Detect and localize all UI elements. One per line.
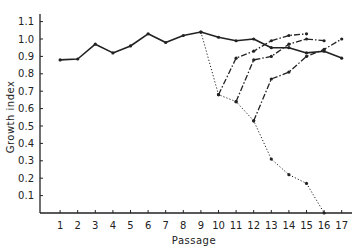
x-tick-label: 10 (212, 220, 225, 231)
data-point (305, 32, 308, 35)
data-point (164, 41, 167, 44)
y-tick-label: 0.1 (18, 190, 34, 201)
x-tick-label: 1 (57, 220, 63, 231)
data-point (287, 70, 290, 73)
data-point (252, 119, 255, 122)
y-tick-label: 0.2 (18, 173, 34, 184)
data-point (340, 57, 343, 60)
data-point (111, 51, 114, 54)
data-point (182, 34, 185, 37)
x-tick-label: 6 (145, 220, 151, 231)
data-point (76, 57, 79, 60)
data-point (287, 43, 290, 46)
data-point (59, 58, 62, 61)
data-point (252, 37, 255, 40)
data-point (287, 173, 290, 176)
y-tick-label: 0.6 (18, 103, 34, 114)
x-tick-label: 3 (92, 220, 98, 231)
y-tick-label: 0.3 (18, 155, 34, 166)
data-point (270, 55, 273, 58)
x-axis-title: Passage (172, 235, 216, 246)
data-point (94, 43, 97, 46)
x-tick-label: 13 (265, 220, 278, 231)
data-point (305, 51, 308, 54)
data-point (129, 44, 132, 47)
data-point (252, 58, 255, 61)
x-tick-label: 14 (283, 220, 296, 231)
series-line (201, 32, 324, 213)
x-tick-label: 5 (127, 220, 133, 231)
data-point (323, 48, 326, 51)
data-point (217, 93, 220, 96)
data-point (305, 182, 308, 185)
data-point (270, 77, 273, 80)
x-tick-label: 9 (198, 220, 204, 231)
data-point (323, 39, 326, 42)
data-point (340, 37, 343, 40)
x-tick-label: 15 (300, 220, 313, 231)
data-point (270, 157, 273, 160)
axes: 0.10.20.30.40.50.60.70.80.91.01.11234567… (18, 14, 352, 231)
data-point (199, 30, 202, 33)
series-recovery-from-passage-10 (217, 32, 308, 96)
x-tick-label: 16 (318, 220, 331, 231)
y-tick-label: 0.7 (18, 86, 34, 97)
data-point (305, 55, 308, 58)
series-layer (59, 30, 344, 214)
growth-index-chart: 0.10.20.30.40.50.60.70.80.91.01.11234567… (0, 0, 359, 247)
x-tick-label: 7 (163, 220, 169, 231)
x-tick-label: 2 (75, 220, 81, 231)
data-point (235, 100, 238, 103)
y-tick-label: 1.0 (18, 34, 34, 45)
x-tick-label: 4 (110, 220, 116, 231)
data-point (305, 37, 308, 40)
x-tick-label: 11 (230, 220, 243, 231)
y-tick-label: 1.1 (18, 16, 34, 27)
y-axis-title: Growth index (5, 81, 16, 154)
data-point (287, 46, 290, 49)
x-tick-label: 17 (335, 220, 348, 231)
data-point (252, 50, 255, 53)
series-line (60, 32, 342, 60)
y-tick-label: 0.5 (18, 121, 34, 132)
data-point (235, 39, 238, 42)
data-point (270, 46, 273, 49)
data-point (217, 36, 220, 39)
data-point (147, 32, 150, 35)
y-tick-label: 0.8 (18, 68, 34, 79)
data-point (235, 57, 238, 60)
x-tick-label: 8 (180, 220, 186, 231)
data-point (270, 39, 273, 42)
series-line (254, 39, 342, 121)
series-control (59, 30, 344, 61)
x-tick-label: 12 (247, 220, 260, 231)
data-point (287, 34, 290, 37)
data-point (323, 211, 326, 214)
y-tick-label: 0.9 (18, 51, 34, 62)
y-tick-label: 0.4 (18, 138, 34, 149)
